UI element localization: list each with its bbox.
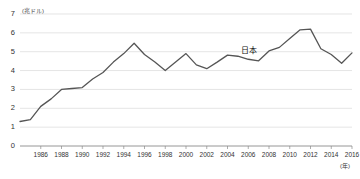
y-axis-tick-label: 1 [3, 123, 15, 131]
x-axis-tick-label: 2016 [339, 152, 360, 159]
x-axis-unit-label: (年) [340, 161, 350, 170]
y-axis-tick-label: 6 [3, 29, 15, 37]
series-line-japan [20, 29, 352, 121]
y-axis-tick-label: 0 [3, 142, 15, 150]
y-axis-tick-label: 2 [3, 104, 15, 112]
y-axis-tick-label: 5 [3, 48, 15, 56]
chart-container: (兆ドル) 日本 (年) 012345671986198819901992199… [0, 0, 360, 179]
y-axis-tick-label: 3 [3, 85, 15, 93]
y-axis-tick-label: 4 [3, 67, 15, 75]
series-label-japan: 日本 [241, 44, 257, 55]
y-axis-tick-label: 7 [3, 10, 15, 18]
